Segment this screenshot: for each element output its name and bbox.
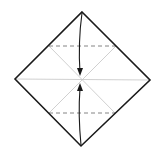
arrow-bottom-up: [79, 88, 81, 145]
fold-diagram-svg: [0, 0, 160, 148]
crease-lines: [15, 46, 150, 113]
origami-diagram: [0, 0, 160, 148]
arrow-top-down: [79, 13, 82, 73]
